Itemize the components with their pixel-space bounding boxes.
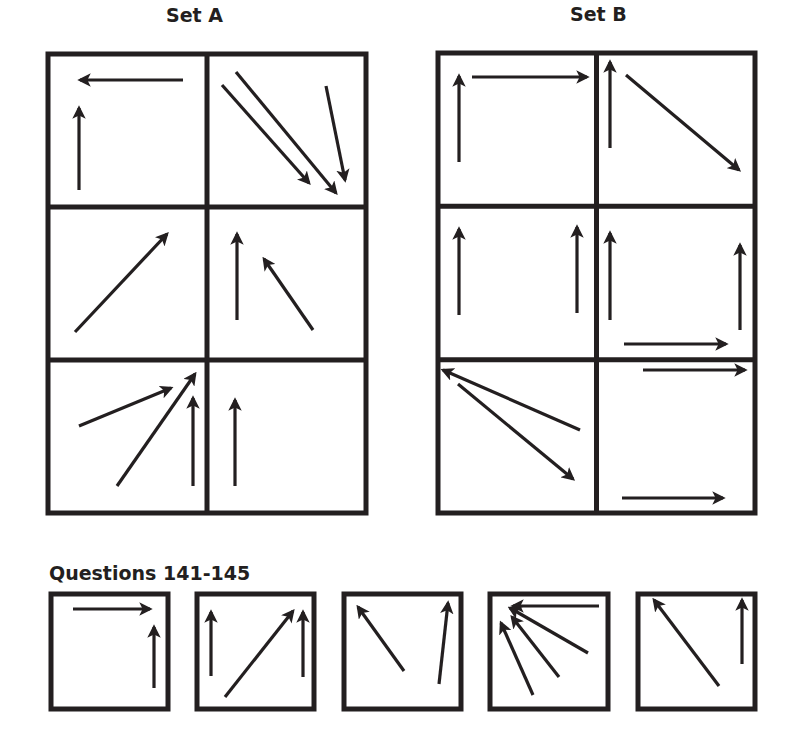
cell-b-r1c2 (610, 62, 739, 170)
arrow-icon (458, 384, 573, 479)
cell-b-r2c1 (459, 227, 577, 315)
questions-row (51, 594, 755, 709)
cell-a-r2c2 (237, 234, 313, 330)
arrow-icon (626, 75, 739, 170)
set-a-grid (48, 54, 366, 513)
question-frame (51, 594, 168, 709)
question-frame (490, 594, 608, 709)
cell-a-r2c1 (75, 234, 167, 332)
set-b-grid (438, 53, 755, 513)
cell-b-r3c2 (622, 370, 745, 498)
arrow-icon (117, 374, 195, 486)
question-frame (197, 594, 314, 709)
arrow-icon (264, 259, 313, 330)
arrow-icon (75, 234, 167, 332)
question-frame (638, 594, 755, 709)
cell-a-r1c1 (79, 80, 183, 190)
arrow-icon (222, 85, 309, 183)
question-141[interactable] (51, 594, 168, 709)
arrow-icon (236, 72, 336, 193)
question-144[interactable] (490, 594, 608, 709)
question-142[interactable] (197, 594, 314, 709)
arrow-icon (443, 370, 580, 430)
question-143[interactable] (344, 594, 461, 709)
arrow-icon (79, 388, 171, 426)
cell-b-r3c1 (443, 370, 580, 479)
question-145[interactable] (638, 594, 755, 709)
arrow-icon (326, 86, 345, 180)
cell-a-r1c2 (222, 72, 345, 193)
diagram-canvas (0, 0, 804, 739)
cell-b-r1c1 (459, 76, 587, 162)
cell-a-r3c1 (79, 374, 195, 486)
cell-b-r2c2 (610, 233, 740, 344)
